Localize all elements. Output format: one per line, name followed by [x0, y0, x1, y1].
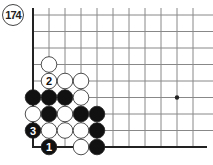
white-stone	[57, 73, 73, 89]
white-stone	[73, 73, 89, 89]
white-stone	[73, 139, 89, 155]
move-number: 2	[46, 75, 52, 87]
black-stone	[57, 90, 73, 106]
white-stone	[41, 57, 57, 73]
black-stone	[89, 123, 105, 139]
black-stone	[89, 139, 105, 155]
black-stone	[89, 106, 105, 122]
white-stone	[57, 106, 73, 122]
black-stone	[25, 90, 41, 106]
black-stone	[41, 90, 57, 106]
move-number: 1	[46, 141, 52, 153]
star-point	[175, 95, 179, 99]
black-stone	[73, 106, 89, 122]
white-stone	[41, 123, 57, 139]
white-stone	[25, 106, 41, 122]
white-stone	[73, 123, 89, 139]
white-stone	[57, 123, 73, 139]
black-stone	[41, 106, 57, 122]
move-number: 3	[30, 125, 36, 137]
go-board: 231	[0, 0, 213, 165]
white-stone	[73, 90, 89, 106]
